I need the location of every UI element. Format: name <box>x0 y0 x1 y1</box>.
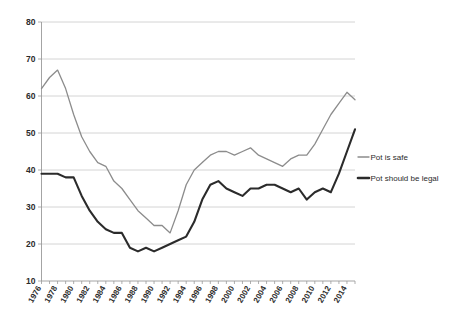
legend-label-0: Pot is safe <box>371 153 409 162</box>
x-tick-label: 1990 <box>139 284 156 304</box>
x-tick-label: 2006 <box>268 284 285 304</box>
x-tick-label: 2014 <box>332 284 349 304</box>
x-tick-label: 1980 <box>59 284 76 304</box>
x-tick-label: 2008 <box>284 284 301 304</box>
y-tick-label: 10 <box>26 276 36 286</box>
series-group <box>42 70 356 251</box>
x-tick-label: 1998 <box>203 284 220 304</box>
x-tick-label: 2002 <box>236 284 253 304</box>
x-tick-label: 1992 <box>155 284 172 304</box>
x-tick-label: 1996 <box>187 284 204 304</box>
x-tick-label: 2012 <box>316 284 333 304</box>
x-tick-label: 1988 <box>123 284 140 304</box>
y-tick-label: 20 <box>26 239 36 249</box>
series-line-pot-should-be-legal <box>42 129 356 251</box>
chart-container: 1020304050607080197619781980198219841986… <box>0 0 457 323</box>
x-tick-label: 1986 <box>107 284 124 304</box>
y-axis-labels: 1020304050607080 <box>26 17 41 286</box>
gridlines-group <box>42 22 356 281</box>
x-tick-label: 2010 <box>300 284 317 304</box>
x-tick-label: 1994 <box>171 284 188 304</box>
x-tick-label: 1978 <box>43 284 60 304</box>
x-tick-label: 1976 <box>27 284 44 304</box>
legend: Pot is safePot should be legal <box>358 153 439 183</box>
y-tick-label: 60 <box>26 91 36 101</box>
legend-label-1: Pot should be legal <box>371 174 439 183</box>
y-tick-label: 50 <box>26 128 36 138</box>
y-tick-label: 30 <box>26 202 36 212</box>
y-tick-label: 40 <box>26 165 36 175</box>
y-tick-label: 70 <box>26 54 36 64</box>
y-tick-label: 80 <box>26 17 36 27</box>
x-tick-label: 2000 <box>219 284 236 304</box>
x-tick-label: 1984 <box>91 284 108 304</box>
line-chart: 1020304050607080197619781980198219841986… <box>0 0 457 323</box>
x-axis-labels: 1976197819801982198419861988199019921994… <box>27 281 355 304</box>
x-tick-label: 2004 <box>252 284 269 304</box>
x-tick-label: 1982 <box>75 284 92 304</box>
